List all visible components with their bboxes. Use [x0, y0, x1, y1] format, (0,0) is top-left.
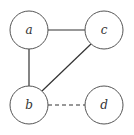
node-b-label: b — [25, 98, 33, 112]
node-a-label: a — [25, 23, 32, 37]
node-c-label: c — [101, 23, 108, 37]
node-c: c — [85, 11, 123, 49]
edge-b-c — [42, 44, 91, 91]
node-a: a — [10, 11, 48, 49]
node-b: b — [10, 86, 48, 124]
node-d: d — [85, 86, 123, 124]
node-d-label: d — [100, 98, 108, 112]
graph-diagram: a c b d — [0, 0, 134, 135]
